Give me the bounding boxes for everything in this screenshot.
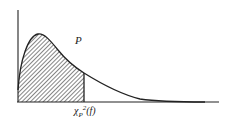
subscript-p: P: [78, 111, 82, 119]
critical-value-label: χP2(f): [74, 104, 96, 119]
degrees-of-freedom: (f): [86, 105, 95, 116]
chi-square-diagram: [0, 0, 230, 123]
region-label-p: P: [75, 34, 82, 46]
